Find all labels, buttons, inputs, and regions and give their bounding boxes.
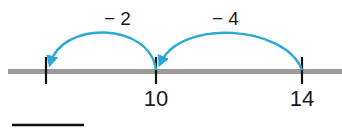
number-line: [8, 69, 342, 74]
jump-arrow-minus-2: [50, 32, 156, 70]
jump-arrow-minus-4: [160, 33, 302, 70]
jump-label-minus-2: − 2: [104, 8, 131, 29]
tick-label-14: 14: [290, 86, 314, 111]
jump-label-minus-4: − 4: [212, 8, 239, 29]
tick-label-10: 10: [144, 86, 168, 111]
number-line-diagram: − 2 − 4 10 14: [0, 0, 342, 140]
